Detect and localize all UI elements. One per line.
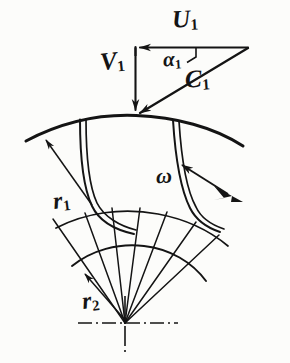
- label-r1: r1: [52, 187, 72, 213]
- label-u1: U1: [171, 5, 198, 31]
- label-omega: ω: [156, 165, 173, 188]
- label-v1: V1: [99, 47, 126, 74]
- alpha-angle-tick: [187, 48, 196, 63]
- outer-shroud-arc: [26, 115, 243, 146]
- blade-left: [80, 119, 136, 234]
- impeller-velocity-triangle-figure: [0, 0, 290, 363]
- label-r2: r2: [81, 287, 101, 313]
- label-c1: C1: [184, 65, 210, 92]
- hub-grid: [53, 208, 228, 323]
- label-alpha1: α1: [162, 48, 182, 70]
